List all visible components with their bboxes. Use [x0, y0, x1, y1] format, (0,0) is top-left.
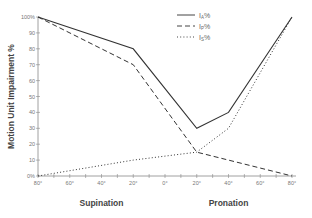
x-tick-label: 80°	[34, 180, 42, 186]
y-tick-label: 30	[29, 125, 35, 131]
x-tick-label: 20°	[193, 180, 201, 186]
legend-label: IA%	[199, 12, 210, 21]
y-tick-label: 70	[29, 62, 35, 68]
x-tick-label: 0°	[162, 180, 167, 186]
series-i-p	[38, 17, 292, 176]
x-tick-label: 20°	[129, 180, 137, 186]
x-tick-label: 40°	[97, 180, 105, 186]
legend-label: IS%	[199, 34, 210, 43]
legend-label: IP%	[199, 23, 210, 32]
y-tick-label: 80	[29, 46, 35, 52]
x-tick-label: 60°	[256, 180, 264, 186]
series-i-s	[38, 17, 292, 176]
y-tick-label: 60	[29, 78, 35, 84]
y-tick-label: 100%	[21, 14, 35, 20]
x-tick-label: 40°	[224, 180, 232, 186]
y-tick-label: 10	[29, 157, 35, 163]
y-tick-label: 90	[29, 30, 35, 36]
y-tick-label: 50	[29, 94, 35, 100]
x-label-pronation: Pronation	[209, 198, 249, 208]
y-axis-label: Motion Unit Impairment %	[6, 44, 16, 149]
y-tick-label: 0%	[27, 173, 35, 179]
x-tick-label: 80°	[288, 180, 296, 186]
x-tick-label: 60°	[66, 180, 74, 186]
line-chart: 0%102030405060708090100%80°60°40°20°0°20…	[0, 0, 312, 218]
series-i-a	[38, 17, 292, 128]
y-tick-label: 40	[29, 109, 35, 115]
y-tick-label: 20	[29, 141, 35, 147]
x-label-supination: Supination	[80, 198, 124, 208]
